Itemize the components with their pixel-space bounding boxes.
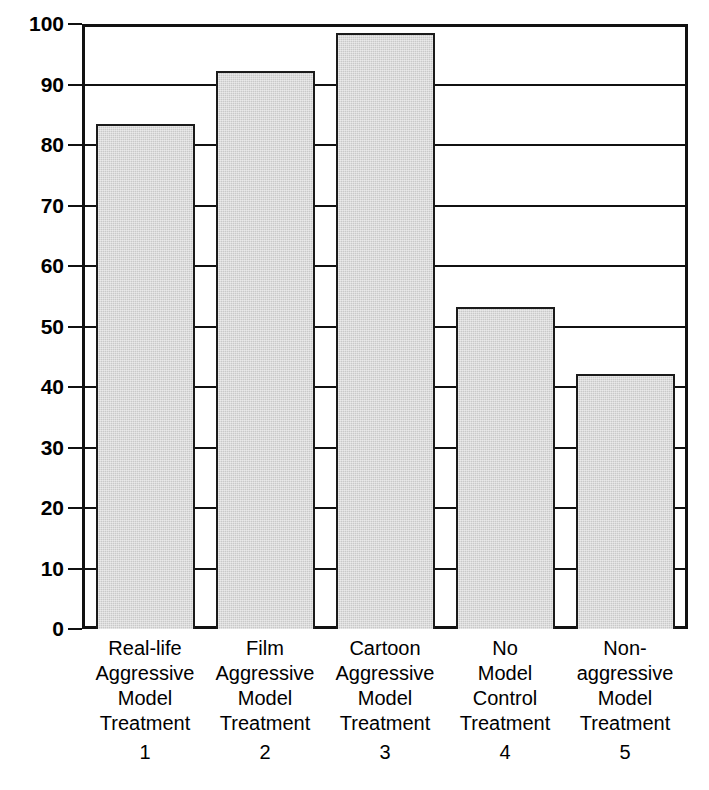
x-axis-category-line: Model: [445, 661, 565, 686]
y-axis-tick: [68, 23, 82, 25]
y-axis-tick-label: 30: [0, 437, 64, 458]
gridline: [82, 326, 688, 328]
x-axis-category-line: Aggressive: [85, 661, 205, 686]
x-axis-category-line: Aggressive: [325, 661, 445, 686]
y-axis-tick-label: 20: [0, 497, 64, 518]
x-axis-category-line: No: [445, 636, 565, 661]
gridline: [82, 205, 688, 207]
x-axis-category-line: Treatment: [205, 711, 325, 736]
y-axis-tick-label: 10: [0, 558, 64, 579]
y-axis-tick: [68, 205, 82, 207]
y-axis-tick-label: 90: [0, 74, 64, 95]
x-axis-category-line: Treatment: [325, 711, 445, 736]
y-axis-tick: [68, 568, 82, 570]
x-axis-category-line: Real-life: [85, 636, 205, 661]
y-axis-tick-label: 0: [0, 618, 64, 639]
y-axis-tick-label: 80: [0, 134, 64, 155]
x-axis-category-line: Aggressive: [205, 661, 325, 686]
y-axis-tick-label: 70: [0, 195, 64, 216]
gridline: [82, 568, 688, 570]
x-axis-category-4: NoModelControlTreatment4: [445, 636, 565, 765]
x-axis-category-2: FilmAggressiveModelTreatment2: [205, 636, 325, 765]
x-axis-category-number: 3: [325, 740, 445, 765]
x-axis-category-line: Non-: [565, 636, 685, 661]
x-axis-category-line: Model: [85, 686, 205, 711]
y-axis-tick-label: 40: [0, 376, 64, 397]
x-axis-category-line: aggressive: [565, 661, 685, 686]
y-axis-tick: [68, 265, 82, 267]
gridline: [82, 265, 688, 267]
y-axis-tick-label: 100: [0, 13, 64, 34]
x-axis-category-line: Treatment: [445, 711, 565, 736]
y-axis-tick: [68, 144, 82, 146]
x-axis-category-line: Treatment: [85, 711, 205, 736]
x-axis-category-number: 4: [445, 740, 565, 765]
y-axis-tick: [68, 84, 82, 86]
y-axis-tick-label: 50: [0, 316, 64, 337]
y-axis-tick-label: 60: [0, 255, 64, 276]
x-axis-category-1: Real-lifeAggressiveModelTreatment1: [85, 636, 205, 765]
x-axis-category-3: CartoonAggressiveModelTreatment3: [325, 636, 445, 765]
gridline: [82, 507, 688, 509]
y-axis-tick: [68, 447, 82, 449]
y-axis-tick: [68, 386, 82, 388]
x-axis-category-number: 5: [565, 740, 685, 765]
x-axis-category-number: 1: [85, 740, 205, 765]
x-axis-category-number: 2: [205, 740, 325, 765]
x-axis-category-line: Cartoon: [325, 636, 445, 661]
gridline: [82, 144, 688, 146]
bar-chart-figure: Mean Number of Aggressive Responses 1009…: [0, 0, 709, 790]
x-axis-category-line: Control: [445, 686, 565, 711]
x-axis-labels: Real-lifeAggressiveModelTreatment1FilmAg…: [82, 636, 688, 786]
x-axis-category-5: Non-aggressiveModelTreatment5: [565, 636, 685, 765]
y-axis-tick: [68, 326, 82, 328]
gridline: [82, 386, 688, 388]
x-axis-category-line: Model: [205, 686, 325, 711]
x-axis-category-line: Treatment: [565, 711, 685, 736]
x-axis-category-line: Model: [565, 686, 685, 711]
y-axis-tick: [68, 507, 82, 509]
x-axis-category-line: Model: [325, 686, 445, 711]
y-axis-tick: [68, 628, 82, 630]
gridline: [82, 447, 688, 449]
gridline: [82, 84, 688, 86]
x-axis-category-line: Film: [205, 636, 325, 661]
